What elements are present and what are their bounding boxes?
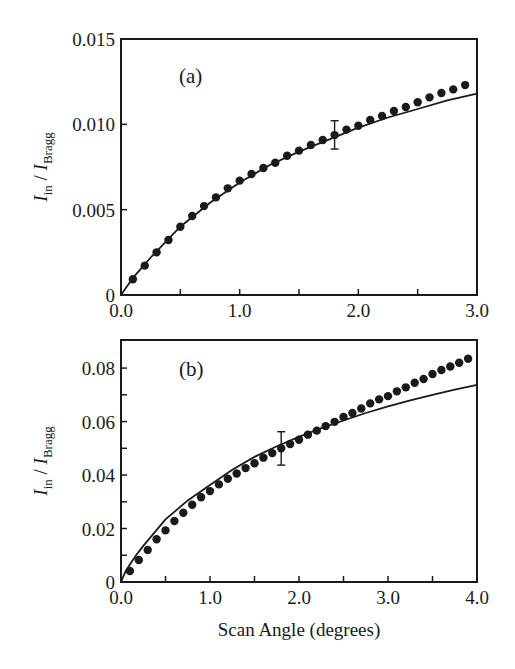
data-point [330, 418, 338, 426]
panel-label: (b) [179, 357, 204, 381]
data-point [235, 176, 243, 184]
data-point [126, 567, 134, 575]
data-point [197, 493, 205, 501]
data-point [313, 426, 321, 434]
data-point [307, 141, 315, 149]
x-tick-label: 1.0 [198, 587, 222, 608]
x-tick-label: 3.0 [376, 587, 400, 608]
data-point [271, 159, 279, 167]
data-point [295, 436, 303, 444]
y-tick-label: 0.06 [82, 412, 115, 433]
figure: 0.01.02.03.000.0050.0100.015(a)Iin / IBr… [0, 0, 515, 669]
x-tick-label: 2.0 [287, 587, 311, 608]
data-point [425, 93, 433, 101]
data-point [259, 164, 267, 172]
y-tick-label: 0.04 [82, 465, 116, 486]
data-point [461, 81, 469, 89]
y-tick-label: 0.010 [72, 114, 115, 135]
data-point [402, 383, 410, 391]
data-point [449, 85, 457, 93]
x-tick-label: 4.0 [465, 587, 489, 608]
data-point [224, 184, 232, 192]
data-point [411, 379, 419, 387]
y-tick-label: 0.08 [82, 358, 115, 379]
data-point [200, 202, 208, 210]
data-point [170, 517, 178, 525]
y-axis-title: Iin / IBragg [30, 426, 55, 497]
plot-frame [121, 39, 477, 295]
data-point [366, 399, 374, 407]
data-point [437, 89, 445, 97]
data-point [402, 103, 410, 111]
data-point [348, 409, 356, 417]
x-axis-title: Scan Angle (degrees) [218, 619, 381, 641]
data-point [161, 526, 169, 534]
data-point [464, 355, 472, 363]
x-tick-label: 1.0 [228, 300, 252, 321]
data-point [384, 392, 392, 400]
x-tick-label: 2.0 [346, 300, 370, 321]
data-point [455, 359, 463, 367]
y-axis-title: Iin / IBragg [30, 132, 55, 203]
data-point [215, 480, 223, 488]
data-point [188, 501, 196, 509]
data-point [135, 556, 143, 564]
data-point [366, 116, 374, 124]
data-point [247, 170, 255, 178]
data-point [144, 546, 152, 554]
data-point [233, 469, 241, 477]
data-point [129, 275, 137, 283]
data-point [319, 136, 327, 144]
data-point [164, 236, 172, 244]
data-point [342, 125, 350, 133]
data-point [224, 475, 232, 483]
data-point [206, 487, 214, 495]
y-tick-label: 0 [106, 285, 116, 306]
data-point [437, 366, 445, 374]
x-tick-label: 3.0 [465, 300, 489, 321]
fit-curve [121, 385, 477, 582]
panel-a-chart: 0.01.02.03.000.0050.0100.015(a)Iin / IBr… [30, 29, 489, 321]
data-point [339, 413, 347, 421]
panel-b-chart: 0.01.02.03.04.000.020.040.060.08(b)Iin /… [30, 340, 489, 608]
y-tick-label: 0.015 [72, 29, 115, 50]
data-point [152, 535, 160, 543]
data-point [188, 212, 196, 220]
data-point [393, 387, 401, 395]
data-point [446, 362, 454, 370]
data-point [322, 422, 330, 430]
data-point [176, 223, 184, 231]
data-point [304, 430, 312, 438]
data-point [375, 395, 383, 403]
data-point [152, 248, 160, 256]
data-points [126, 355, 473, 576]
data-point [390, 107, 398, 115]
fit-curve [121, 94, 477, 295]
data-point [357, 404, 365, 412]
data-point [378, 112, 386, 120]
panel-label: (a) [179, 64, 202, 88]
data-point [141, 261, 149, 269]
data-point [268, 449, 276, 457]
data-point [241, 464, 249, 472]
y-tick-label: 0.005 [72, 200, 115, 221]
data-point [428, 370, 436, 378]
data-point [354, 121, 362, 129]
data-point [419, 375, 427, 383]
data-point [259, 453, 267, 461]
y-tick-label: 0 [106, 572, 116, 593]
y-tick-label: 0.02 [82, 519, 115, 540]
data-point [413, 98, 421, 106]
data-point [283, 152, 291, 160]
data-point [295, 146, 303, 154]
data-points [129, 81, 470, 284]
data-point [179, 509, 187, 517]
data-point [212, 193, 220, 201]
data-point [250, 459, 258, 467]
data-point [286, 440, 294, 448]
